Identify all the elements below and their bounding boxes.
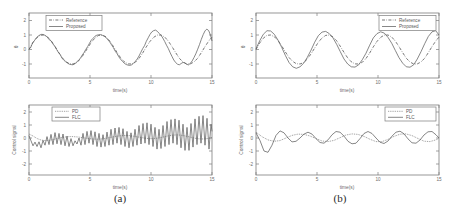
y-tick-label: 2	[250, 110, 253, 115]
panel-bottom-left: 2 1 0 -1 -2 0 5 10 15 time(s)	[0, 98, 227, 193]
legend-label-pd: PD	[406, 109, 413, 114]
y-tick-label: 1	[250, 33, 253, 38]
y-axis-label: Control signal	[239, 125, 244, 154]
y-tick-label: -1	[22, 62, 27, 67]
trace-proposed	[29, 29, 212, 65]
subfigure-caption-a: (a)	[100, 192, 140, 204]
x-tick-label: 15	[209, 80, 215, 85]
x-tick-label: 5	[316, 177, 319, 182]
x-tick-label: 0	[255, 80, 258, 85]
x-tick-label: 0	[28, 177, 31, 182]
legend-label-proposed: Proposed	[66, 24, 86, 29]
plot-top-left: 2 1 0 -1 0 5 10 15 time(s)	[0, 0, 227, 100]
subfigure-caption-b: (b)	[320, 192, 360, 204]
legend-label-reference: Reference	[399, 18, 421, 23]
x-axis-label: time(s)	[113, 88, 128, 93]
x-tick-label: 5	[316, 80, 319, 85]
y-tick-label: -1	[249, 149, 254, 154]
y-tick-label: -2	[22, 162, 27, 167]
legend-bottom-right[interactable]: PD FLC	[385, 107, 436, 121]
legend-label-proposed: Proposed	[399, 24, 419, 29]
y-tick-label: 1	[23, 33, 26, 38]
x-tick-label: 5	[89, 177, 92, 182]
y-tick-label: 2	[23, 18, 26, 23]
x-tick-label: 10	[148, 177, 154, 182]
legend-top-right[interactable]: Reference Proposed	[379, 16, 436, 31]
y-tick-label: -1	[22, 149, 27, 154]
x-tick-label: 10	[375, 80, 381, 85]
panel-top-left: 2 1 0 -1 0 5 10 15 time(s)	[0, 0, 227, 100]
x-tick-label: 15	[209, 177, 215, 182]
legend-label-flc: FLC	[72, 115, 81, 120]
y-tick-label: 0	[23, 47, 26, 52]
x-tick-label: 0	[28, 80, 31, 85]
trace-reference	[256, 35, 439, 64]
y-axis-label: Control signal	[12, 125, 17, 154]
plot-bottom-right: 2 1 0 -1 -2 0 5 10 15 time(s)	[227, 98, 454, 193]
legend-bottom-left[interactable]: PD FLC	[52, 107, 100, 121]
x-axis-label: time(s)	[340, 185, 355, 190]
x-axis-label: time(s)	[340, 88, 355, 93]
y-tick-label: 1	[250, 123, 253, 128]
x-tick-label: 10	[148, 80, 154, 85]
legend-label-flc: FLC	[406, 115, 415, 120]
y-tick-label: -2	[249, 162, 254, 167]
y-tick-label: 0	[23, 136, 26, 141]
x-tick-label: 15	[436, 177, 442, 182]
y-tick-label: -1	[249, 62, 254, 67]
x-tick-label: 15	[436, 80, 442, 85]
y-axis-label: θ	[14, 45, 19, 48]
panel-bottom-right: 2 1 0 -1 -2 0 5 10 15 time(s)	[227, 98, 454, 193]
legend-top-left[interactable]: Reference Proposed	[46, 16, 102, 31]
panel-top-right: 2 1 0 -1 0 5 10 15 time(s) θ	[227, 0, 454, 100]
legend-label-reference: Reference	[66, 18, 88, 23]
y-tick-label: 1	[23, 123, 26, 128]
x-tick-label: 5	[89, 80, 92, 85]
figure-container: 2 1 0 -1 0 5 10 15 time(s)	[0, 0, 454, 221]
plot-bottom-left: 2 1 0 -1 -2 0 5 10 15 time(s)	[0, 98, 227, 193]
legend-label-pd: PD	[72, 109, 79, 114]
x-tick-label: 10	[375, 177, 381, 182]
y-tick-label: 2	[23, 110, 26, 115]
plot-top-right: 2 1 0 -1 0 5 10 15 time(s) θ	[227, 0, 454, 100]
y-tick-label: 0	[250, 47, 253, 52]
y-axis-label: θ	[241, 45, 246, 48]
x-axis-label: time(s)	[113, 185, 128, 190]
trace-flc	[256, 131, 439, 152]
y-tick-label: 0	[250, 136, 253, 141]
y-tick-label: 2	[250, 18, 253, 23]
x-tick-label: 0	[255, 177, 258, 182]
